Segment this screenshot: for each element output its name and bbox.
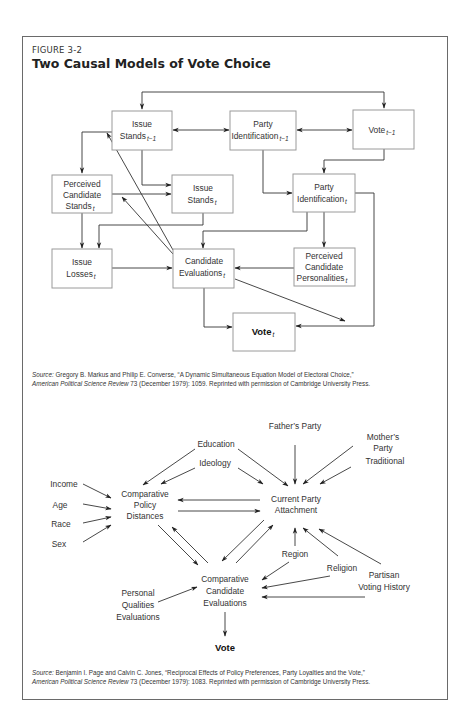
- node-personal-qualities: Personal: [121, 588, 154, 598]
- svg-text:Voting History: Voting History: [358, 582, 410, 592]
- node-issue-stands-prev: Issue Standst−1: [112, 111, 172, 150]
- node-race: Race: [51, 519, 71, 529]
- node-traditional: Traditional: [366, 456, 405, 466]
- node-candidate-evaluations: Candidate Evaluationst: [173, 249, 234, 288]
- node-ideology: Ideology: [199, 458, 231, 468]
- node-age: Age: [53, 500, 68, 510]
- model-1-diagram: Issue Standst−1 Party Identificationt−1 …: [52, 92, 414, 351]
- node-sex: Sex: [52, 539, 67, 549]
- svg-text:Candidate: Candidate: [206, 586, 245, 596]
- svg-text:Evaluationst: Evaluationst: [179, 268, 226, 279]
- node-perceived-candidate-stands: Perceived Candidate Standst: [52, 175, 112, 213]
- model-2-diagram: Income Age Race Sex Education Ideology F…: [50, 421, 410, 653]
- svg-text:Issue: Issue: [193, 183, 213, 193]
- svg-text:Party: Party: [314, 182, 334, 192]
- source-note-1: Source: Gregory B. Markus and Philip E. …: [32, 370, 442, 388]
- svg-text:Evaluations: Evaluations: [203, 598, 246, 608]
- node-partisan-voting-history: Partisan: [369, 570, 400, 580]
- node-issue-stands: Issue Standst: [172, 175, 233, 213]
- node-perceived-candidate-personalities: Perceived Candidate Personalitiest: [294, 248, 355, 286]
- svg-text:Lossest: Lossest: [66, 269, 97, 280]
- node-party-id: Party Identificationt: [293, 174, 355, 212]
- node-education: Education: [197, 439, 235, 449]
- causal-diagrams: Issue Standst−1 Party Identificationt−1 …: [0, 0, 468, 727]
- node-fathers-party: Father’s Party: [269, 421, 322, 431]
- node-vote-outcome: Vote: [215, 642, 235, 653]
- node-mothers-party: Mother’s: [367, 432, 399, 442]
- svg-text:Personalitiest: Personalitiest: [297, 273, 349, 284]
- source-note-2: Source: Benjamin I. Page and Calvin C. J…: [32, 668, 442, 686]
- svg-text:Party: Party: [253, 119, 273, 129]
- node-income: Income: [50, 479, 78, 489]
- svg-text:Policy: Policy: [134, 500, 157, 510]
- svg-text:Attachment: Attachment: [275, 505, 318, 515]
- svg-text:Candidate: Candidate: [63, 190, 102, 200]
- node-current-party-attachment: Current Party: [271, 494, 322, 504]
- svg-text:Candidate: Candidate: [185, 256, 224, 266]
- svg-text:Qualities: Qualities: [122, 600, 155, 610]
- svg-text:Perceived: Perceived: [63, 179, 101, 189]
- svg-text:Identificationt: Identificationt: [297, 194, 348, 205]
- node-vote-prev: Votet−1: [353, 110, 414, 149]
- model-2-labels: Income Age Race Sex Education Ideology F…: [50, 421, 410, 653]
- svg-text:Issue: Issue: [72, 257, 92, 267]
- svg-text:Evaluations: Evaluations: [116, 612, 159, 622]
- node-vote: Votet: [233, 313, 295, 351]
- svg-text:Standst: Standst: [188, 195, 218, 206]
- svg-text:Party: Party: [373, 443, 393, 453]
- svg-text:Standst: Standst: [66, 201, 96, 212]
- node-comparative-candidate-evaluations: Comparative: [201, 574, 249, 584]
- svg-text:Distances: Distances: [127, 511, 164, 521]
- node-policy-distances: Comparative: [121, 489, 169, 499]
- node-religion: Religion: [327, 563, 358, 573]
- svg-text:Candidate: Candidate: [305, 262, 344, 272]
- svg-text:Perceived: Perceived: [305, 251, 343, 261]
- svg-text:Issue: Issue: [132, 119, 152, 129]
- node-party-id-prev: Party Identificationt−1: [230, 111, 296, 150]
- node-issue-losses: Issue Lossest: [52, 249, 112, 288]
- node-region: Region: [282, 549, 309, 559]
